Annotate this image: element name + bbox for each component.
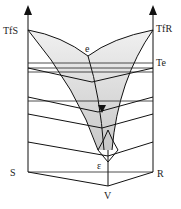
right-axis-arrow-icon — [149, 5, 157, 15]
base-triangle — [28, 172, 153, 186]
label-e: e — [85, 43, 90, 54]
left-axis-arrow-icon — [24, 5, 32, 15]
label-s: S — [10, 167, 16, 178]
label-r: R — [157, 168, 164, 179]
label-tfr: TfR — [156, 23, 172, 34]
label-tfs: TfS — [3, 25, 18, 36]
liquidus-surface-left — [28, 30, 104, 150]
label-v: V — [104, 190, 112, 201]
label-te: Te — [156, 57, 166, 68]
phase-diagram: TfS TfR Te e ε S R V — [0, 0, 181, 209]
isotherm-4 — [28, 142, 153, 156]
label-epsilon: ε — [97, 160, 101, 171]
